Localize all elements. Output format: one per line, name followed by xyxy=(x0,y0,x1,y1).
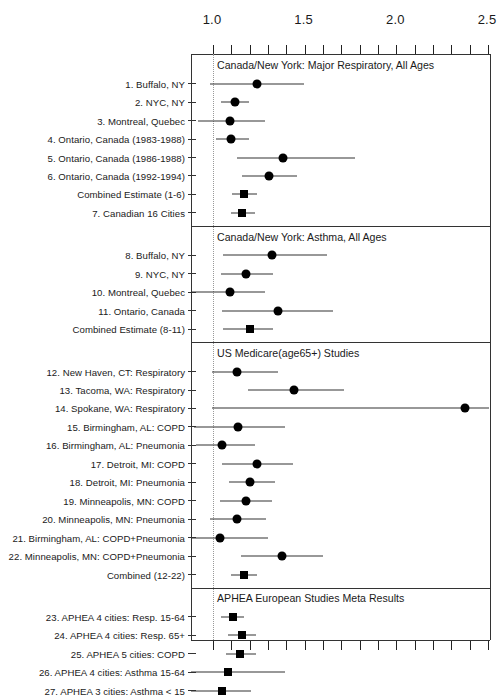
row-tick xyxy=(188,371,196,373)
axis-tick xyxy=(488,641,489,650)
axis-tick xyxy=(250,45,251,54)
panel-title-1: Canada/New York: Asthma, All Ages xyxy=(217,231,387,243)
panel-separator xyxy=(191,342,490,343)
panel-separator xyxy=(191,588,490,589)
axis-tick xyxy=(341,641,342,650)
estimate-marker-square xyxy=(229,613,237,621)
row-label: 5. Ontario, Canada (1986-1988) xyxy=(48,152,186,163)
plot-border-left xyxy=(191,54,192,640)
axis-tick xyxy=(396,641,397,650)
row-label: 17. Detroit, MI: COPD xyxy=(91,458,185,469)
row-label: 8. Buffalo, NY xyxy=(125,250,185,261)
plot-border-bottom xyxy=(191,640,490,641)
estimate-marker-square xyxy=(224,668,232,676)
row-tick xyxy=(188,157,196,159)
row-label: 23. APHEA 4 cities: Resp. 15-64 xyxy=(46,611,185,622)
axis-tick xyxy=(451,45,452,54)
axis-tick xyxy=(341,45,342,54)
estimate-marker-circle xyxy=(230,98,239,107)
plot-border-right xyxy=(490,54,491,640)
axis-tick xyxy=(415,45,416,54)
axis-tick xyxy=(286,45,287,54)
axis-tick xyxy=(268,45,269,54)
plot-border-top xyxy=(191,54,490,55)
axis-tick xyxy=(286,641,287,650)
axis-tick xyxy=(305,45,306,54)
estimate-marker-square xyxy=(246,325,254,333)
row-label: 15. Birmingham, AL: COPD xyxy=(67,421,185,432)
estimate-marker-square xyxy=(218,687,226,695)
row-tick xyxy=(188,175,196,177)
row-label: 2. NYC, NY xyxy=(135,97,185,108)
estimate-marker-circle xyxy=(252,79,261,88)
row-tick xyxy=(188,635,196,637)
row-label: 16. Birmingham, AL: Pneumonia xyxy=(46,440,185,451)
axis-tick xyxy=(231,45,232,54)
axis-tick xyxy=(323,45,324,54)
axis-tick xyxy=(231,641,232,650)
axis-tick xyxy=(470,641,471,650)
row-tick xyxy=(188,519,196,521)
row-tick xyxy=(188,255,196,257)
row-label: 20. Minneapolis, MN: Pneumonia xyxy=(42,514,185,525)
axis-tick xyxy=(470,45,471,54)
axis-tick xyxy=(433,641,434,650)
row-label: 3. Montreal, Quebec xyxy=(97,115,185,126)
row-label: 9. NYC, NY xyxy=(135,268,185,279)
estimate-marker-circle xyxy=(226,116,235,125)
estimate-marker-circle xyxy=(227,135,236,144)
row-label: 21. Birmingham, AL: COPD+Pneumonia xyxy=(12,532,185,543)
row-label: 25. APHEA 5 cities: COPD xyxy=(71,648,185,659)
row-tick xyxy=(188,500,196,502)
row-tick xyxy=(188,463,196,465)
row-label: 14. Spokane, WA: Respiratory xyxy=(55,403,185,414)
axis-tick xyxy=(323,641,324,650)
row-label: 4. Ontario, Canada (1983-1988) xyxy=(48,134,186,145)
panel-title-2: US Medicare(age65+) Studies xyxy=(217,347,359,359)
estimate-marker-square xyxy=(240,190,248,198)
row-label: 13. Tacoma, WA: Respiratory xyxy=(59,385,185,396)
confidence-interval-line xyxy=(191,672,285,673)
row-label: 22. Minneapolis, MN: COPD+Pneumonia xyxy=(9,551,185,562)
confidence-interval-line xyxy=(237,157,355,158)
row-label: 7. Canadian 16 Cities xyxy=(92,207,185,218)
axis-tick xyxy=(378,45,379,54)
estimate-marker-circle xyxy=(252,459,261,468)
row-tick xyxy=(188,653,196,655)
confidence-interval-line xyxy=(212,371,278,372)
axis-tick xyxy=(415,641,416,650)
axis-tick xyxy=(488,45,489,54)
row-label: Combined (12-22) xyxy=(107,569,185,580)
row-tick xyxy=(188,120,196,122)
axis-tick xyxy=(268,641,269,650)
row-label: 1. Buffalo, NY xyxy=(125,78,185,89)
row-tick xyxy=(188,310,196,312)
axis-tick-label-1.5: 1.5 xyxy=(264,12,344,27)
estimate-marker-circle xyxy=(246,478,255,487)
estimate-marker-circle xyxy=(232,515,241,524)
estimate-marker-circle xyxy=(226,288,235,297)
estimate-marker-square xyxy=(240,571,248,579)
axis-tick xyxy=(305,641,306,650)
row-tick xyxy=(188,102,196,104)
axis-tick xyxy=(433,45,434,54)
axis-tick xyxy=(213,45,214,54)
row-tick xyxy=(188,194,196,196)
confidence-interval-line xyxy=(191,537,268,538)
row-tick xyxy=(188,139,196,141)
row-tick xyxy=(188,408,196,410)
estimate-marker-circle xyxy=(241,269,250,278)
row-label: 10. Montreal, Quebec xyxy=(92,287,185,298)
estimate-marker-square xyxy=(236,650,244,658)
estimate-marker-circle xyxy=(264,171,273,180)
axis-tick xyxy=(451,641,452,650)
estimate-marker-circle xyxy=(290,386,299,395)
confidence-interval-line xyxy=(212,408,489,409)
estimate-marker-square xyxy=(238,209,246,217)
row-tick xyxy=(188,83,196,85)
estimate-marker-circle xyxy=(216,533,225,542)
estimate-marker-circle xyxy=(273,306,282,315)
axis-tick-label-2: 2.0 xyxy=(355,12,435,27)
panel-title-3: APHEA European Studies Meta Results xyxy=(217,592,404,604)
